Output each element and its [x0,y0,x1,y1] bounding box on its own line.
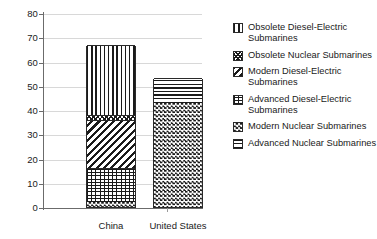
legend-swatch-vert-icon [233,23,243,33]
stacked-bar-chart: 80706050403020100 ChinaUnited States Obs… [0,0,377,239]
legend-item[interactable]: Advanced Diesel-Electric Submarines [233,94,377,116]
bar-segment[interactable] [87,168,135,202]
y-tick-label: 70 [4,33,38,43]
legend-swatch-grid-icon [233,95,243,105]
bar-segment[interactable] [87,45,135,115]
legend-label: Modern Diesel-Electric Submarines [248,66,377,88]
bar-segment[interactable] [87,202,135,207]
y-tick-label: 80 [4,9,38,19]
bar-segment[interactable] [154,78,202,102]
legend-swatch-diagcheck-icon [233,51,243,61]
y-tick-label: 20 [4,155,38,165]
legend-label: Modern Nuclear Submarines [248,121,366,132]
legend-swatch-diag-icon [233,67,243,77]
legend-swatch-horiz-icon [233,139,243,149]
legend-item[interactable]: Modern Nuclear Submarines [233,121,377,132]
x-tick-label: United States [118,221,238,231]
plot-area [44,14,202,208]
legend-swatch-checker-icon [233,122,243,132]
bar-china[interactable] [86,46,136,208]
y-tick-label: 50 [4,82,38,92]
legend-item[interactable]: Obsolete Nuclear Submarines [233,50,377,61]
y-tick-label: 0 [4,203,38,213]
y-tick-label: 10 [4,179,38,189]
y-tick-label: 40 [4,106,38,116]
legend-label: Obsolete Nuclear Submarines [248,50,372,61]
legend-label: Obsolete Diesel-Electric Submarines [248,22,377,44]
legend-label: Advanced Diesel-Electric Submarines [248,94,377,116]
legend-item[interactable]: Advanced Nuclear Submarines [233,138,377,149]
bar-segment[interactable] [154,103,202,207]
bar-united-states[interactable] [153,79,203,208]
y-tick-label: 60 [4,58,38,68]
bar-segment[interactable] [87,120,135,169]
legend-item[interactable]: Modern Diesel-Electric Submarines [233,66,377,88]
legend: Obsolete Diesel-Electric SubmarinesObsol… [233,22,377,154]
x-tick-mark [167,208,168,212]
legend-item[interactable]: Obsolete Diesel-Electric Submarines [233,22,377,44]
x-axis-line [43,208,203,209]
bar-segment[interactable] [87,115,135,120]
legend-label: Advanced Nuclear Submarines [248,138,376,149]
y-tick-label: 30 [4,130,38,140]
